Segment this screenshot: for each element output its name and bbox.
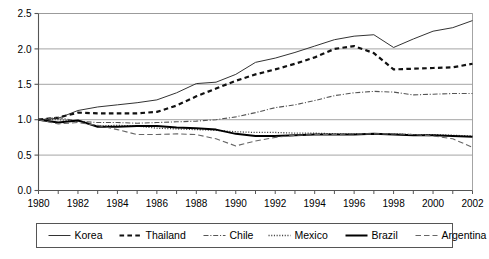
legend-label-thailand: Thailand	[146, 229, 186, 241]
legend-label-argentina: Argentina	[442, 229, 487, 241]
y-tick-label: 1.5	[18, 79, 32, 90]
x-tick-label: 1984	[106, 198, 129, 209]
x-tick-label: 1980	[27, 198, 50, 209]
legend-label-mexico: Mexico	[295, 229, 328, 241]
legend-label-chile: Chile	[230, 229, 254, 241]
legend-label-brazil: Brazil	[372, 229, 398, 241]
x-tick-label: 1994	[304, 198, 327, 209]
x-tick-label: 1996	[343, 198, 366, 209]
y-tick-label: 2.0	[18, 44, 32, 55]
y-tick-label: 0.5	[18, 150, 32, 161]
x-tick-label: 1992	[264, 198, 287, 209]
x-tick-label: 1986	[146, 198, 169, 209]
x-tick-label: 2002	[461, 198, 484, 209]
line-chart: 0.00.51.01.52.02.5 198019821984198619881…	[0, 0, 489, 259]
chart-background	[0, 0, 489, 259]
x-tick-label: 1990	[225, 198, 248, 209]
y-tick-label: 1.0	[18, 114, 32, 125]
x-tick-label: 1982	[67, 198, 90, 209]
chart-figure: 0.00.51.01.52.02.5 198019821984198619881…	[0, 0, 489, 259]
legend-label-korea: Korea	[75, 229, 103, 241]
y-tick-label: 2.5	[18, 8, 32, 19]
chart-legend: KoreaThailandChileMexicoBrazilArgentina	[37, 224, 487, 248]
x-tick-label: 1998	[382, 198, 405, 209]
x-tick-label: 1988	[185, 198, 208, 209]
y-tick-label: 0.0	[18, 185, 32, 196]
x-tick-label: 2000	[422, 198, 445, 209]
